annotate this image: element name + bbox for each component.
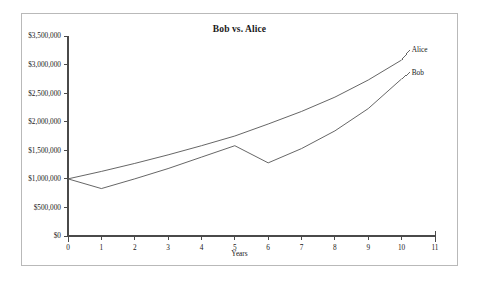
y-tick-label: $3,500,000 <box>0 31 61 40</box>
chart-title: Bob vs. Alice <box>0 24 479 34</box>
series-leader-lines <box>402 50 410 79</box>
y-tick-label: $2,500,000 <box>0 89 61 98</box>
axes-group <box>64 36 435 242</box>
y-tick-label: $1,000,000 <box>0 174 61 183</box>
chart-plot-area <box>0 0 479 283</box>
leader-line-bob <box>402 73 410 79</box>
y-tick-label: $1,500,000 <box>0 146 61 155</box>
y-tick-label: $3,000,000 <box>0 60 61 69</box>
y-tick-label: $0 <box>0 231 61 240</box>
y-tick-label: $2,000,000 <box>0 117 61 126</box>
x-axis-title: Years <box>0 249 479 258</box>
leader-line-alice <box>402 50 410 60</box>
series-label-alice: Alice <box>412 45 428 54</box>
series-lines-group <box>68 60 402 189</box>
series-line-bob <box>68 79 402 189</box>
y-tick-label: $500,000 <box>0 203 61 212</box>
series-label-bob: Bob <box>412 68 424 77</box>
